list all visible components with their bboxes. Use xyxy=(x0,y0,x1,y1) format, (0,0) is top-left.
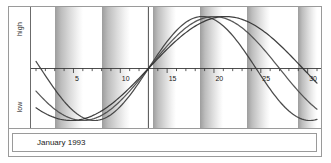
y-axis-low-label: low xyxy=(16,96,24,118)
plot-region: high low 51015202530 xyxy=(9,7,321,129)
y-axis-high-label: high xyxy=(16,18,24,40)
footer-bar: January 1993 xyxy=(9,129,321,157)
y-axis-label-column: high low xyxy=(9,7,31,128)
plot-area: 51015202530 xyxy=(31,7,321,128)
biorhythm-curve-emotional xyxy=(36,17,317,121)
biorhythm-curve-physical xyxy=(36,17,317,121)
footer-caption-box: January 1993 xyxy=(12,133,317,152)
biorhythm-chart-frame: high low 51015202530 January 1993 xyxy=(8,6,322,157)
biorhythm-curve-intellectual xyxy=(36,17,317,121)
month-caption: January 1993 xyxy=(37,138,85,148)
biorhythm-curves-layer xyxy=(31,7,321,128)
